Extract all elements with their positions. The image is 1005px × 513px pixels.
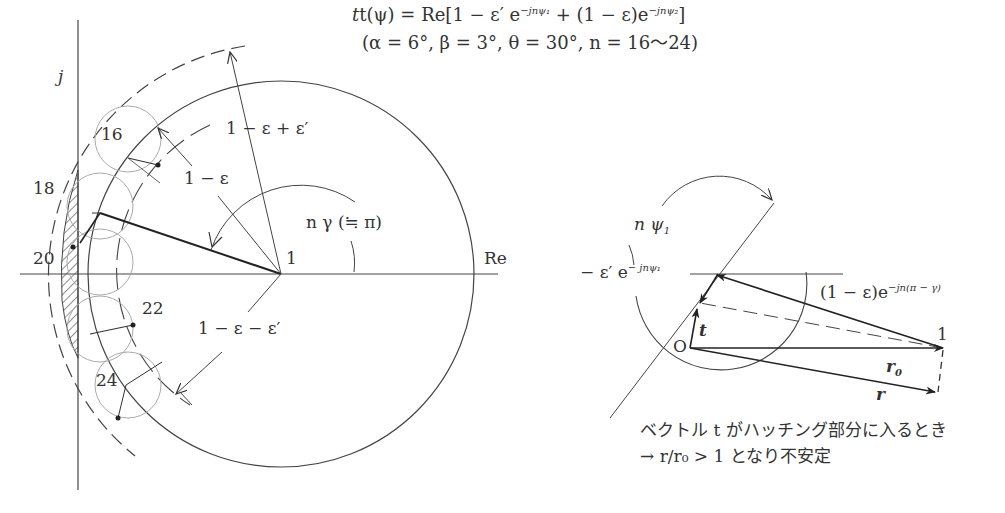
n-label-22: 22 — [142, 298, 164, 318]
main-vector-text: (1 − ε)e — [820, 282, 888, 302]
left-nyquist-diagram — [20, 20, 498, 490]
radius-inner-label: 1 − ε − ε′ — [198, 318, 280, 338]
angle-arc-n-psi1 — [662, 176, 772, 206]
radius-mid-label: 1 − ε — [184, 168, 229, 188]
formula-exp-2: −jnψ₂ — [648, 5, 678, 16]
imag-axis-label: j — [58, 66, 63, 86]
formula-part-3: ] — [678, 4, 685, 25]
formula-exp-1: −jnψ₁ — [520, 5, 550, 16]
angle-label: n γ (≒ π) — [306, 212, 382, 232]
pointer-mid — [158, 128, 192, 166]
note-line-1: ベクトル t がハッチング部分に入るとき — [640, 418, 947, 442]
vector-t — [690, 309, 697, 348]
n-psi1-label: n ψ1 — [634, 214, 670, 236]
note-line-2: → r/r₀ > 1 となり不安定 — [640, 444, 831, 468]
formula-part-1: t(ψ) = Re[1 − ε′ e — [359, 4, 520, 25]
main-vector-label: (1 − ε)e−jn(π − γ) — [820, 282, 941, 302]
n-label-16: 16 — [101, 124, 123, 144]
eps-vector-exp: − jnψ₁ — [628, 262, 661, 273]
t-label: t — [699, 320, 707, 340]
point-18 — [71, 245, 76, 250]
center-point-label: 1 — [286, 248, 297, 268]
n-psi-sub: 1 — [664, 225, 670, 236]
n-psi-text: n ψ — [634, 214, 664, 234]
r-label: r — [876, 384, 885, 404]
formula-part-2: + (1 − ε)e — [550, 4, 649, 25]
n-label-18: 18 — [33, 178, 55, 198]
n-label-20: 20 — [33, 248, 55, 268]
inner-dashed-arc — [117, 125, 210, 405]
pointer-outer — [230, 52, 281, 274]
point-16 — [156, 163, 161, 168]
unstable-hatched-region — [61, 170, 78, 358]
rotation-circle — [636, 272, 807, 370]
r0-text: r — [886, 356, 895, 376]
real-axis-label: Re — [484, 248, 507, 268]
pointer-inner-2 — [176, 352, 222, 394]
formula-title: tt(ψ) = Re[1 − ε′ e−jnψ₁ + (1 − ε)e−jnψ₂… — [352, 4, 685, 25]
r0-sub: 0 — [895, 367, 902, 378]
parameter-line: (α = 6°, β = 3°, θ = 30°, n = 16〜24) — [362, 28, 698, 54]
eps-vector-text: − ε′ e — [580, 262, 628, 282]
radius-outer-label: 1 − ε + ε′ — [226, 118, 308, 138]
point-24 — [116, 416, 121, 421]
point-22 — [131, 323, 136, 328]
point-one-label: 1 — [937, 324, 948, 344]
origin-label: O — [673, 336, 687, 356]
n-label-24: 24 — [96, 370, 118, 390]
pointer-inner — [248, 274, 281, 312]
r0-label: r0 — [886, 356, 902, 378]
main-vector-exp: −jn(π − γ) — [888, 282, 941, 293]
eps-vector-label: − ε′ e− jnψ₁ — [580, 262, 661, 282]
